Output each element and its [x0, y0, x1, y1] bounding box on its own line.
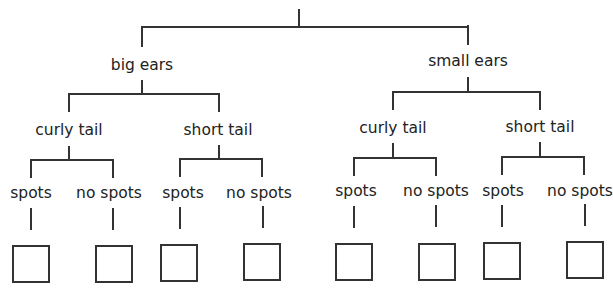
leaf-spots-3: spots [335, 182, 377, 200]
stub-3 [179, 207, 181, 229]
drop-st2-nospots [583, 156, 585, 175]
answer-box-5[interactable] [335, 243, 373, 281]
stub-2 [112, 208, 114, 230]
answer-box-4[interactable] [243, 243, 281, 281]
drop-left-short [218, 93, 220, 112]
stub-1 [30, 208, 32, 230]
branch-curly-tail-1 [30, 159, 114, 161]
node-big-ears: big ears [111, 56, 173, 74]
node-curly-tail-1: curly tail [35, 121, 102, 139]
tree-diagram: big ears small ears curly tail short tai… [0, 0, 613, 289]
drop-ct1-nospots [112, 159, 114, 178]
branch-drop-big-ears [141, 26, 143, 47]
stub-7 [501, 205, 503, 227]
leaf-spots-2: spots [162, 184, 204, 202]
stem-short-tail-1 [218, 145, 220, 159]
node-short-tail-1: short tail [184, 121, 253, 139]
node-short-tail-2: short tail [506, 118, 575, 136]
drop-st1-nospots [261, 158, 263, 177]
drop-ct2-nospots [435, 157, 437, 176]
leaf-spots-1: spots [10, 184, 52, 202]
branch-big-ears [68, 93, 220, 95]
branch-drop-small-ears [467, 25, 469, 45]
drop-ct2-spots [353, 157, 355, 176]
drop-right-short [539, 91, 541, 110]
stub-4 [262, 206, 264, 228]
answer-box-8[interactable] [566, 241, 604, 279]
leaf-no-spots-3: no spots [403, 182, 469, 200]
answer-box-3[interactable] [160, 244, 198, 282]
root-stem-line [298, 9, 300, 27]
answer-box-1[interactable] [12, 245, 50, 283]
leaf-spots-4: spots [482, 182, 524, 200]
stem-curly-tail-2 [392, 143, 394, 158]
drop-left-curly [68, 93, 70, 112]
answer-box-7[interactable] [483, 242, 521, 280]
answer-box-6[interactable] [418, 243, 456, 281]
stub-5 [353, 206, 355, 228]
stub-6 [435, 205, 437, 227]
leaf-no-spots-4: no spots [547, 182, 613, 200]
branch-curly-tail-2 [353, 157, 437, 159]
drop-st1-spots [179, 158, 181, 177]
root-branch-line [141, 26, 469, 28]
branch-short-tail-2 [501, 156, 585, 158]
branch-small-ears [392, 91, 541, 93]
drop-ct1-spots [30, 159, 32, 178]
drop-right-curly [392, 91, 394, 110]
leaf-no-spots-2: no spots [226, 184, 292, 202]
node-curly-tail-2: curly tail [359, 119, 426, 137]
answer-box-2[interactable] [95, 245, 133, 283]
stem-short-tail-2 [539, 142, 541, 157]
branch-short-tail-1 [179, 158, 263, 160]
leaf-no-spots-1: no spots [76, 184, 142, 202]
drop-st2-spots [501, 156, 503, 175]
stem-curly-tail-1 [68, 146, 70, 160]
node-small-ears: small ears [428, 52, 508, 70]
stub-8 [584, 204, 586, 226]
